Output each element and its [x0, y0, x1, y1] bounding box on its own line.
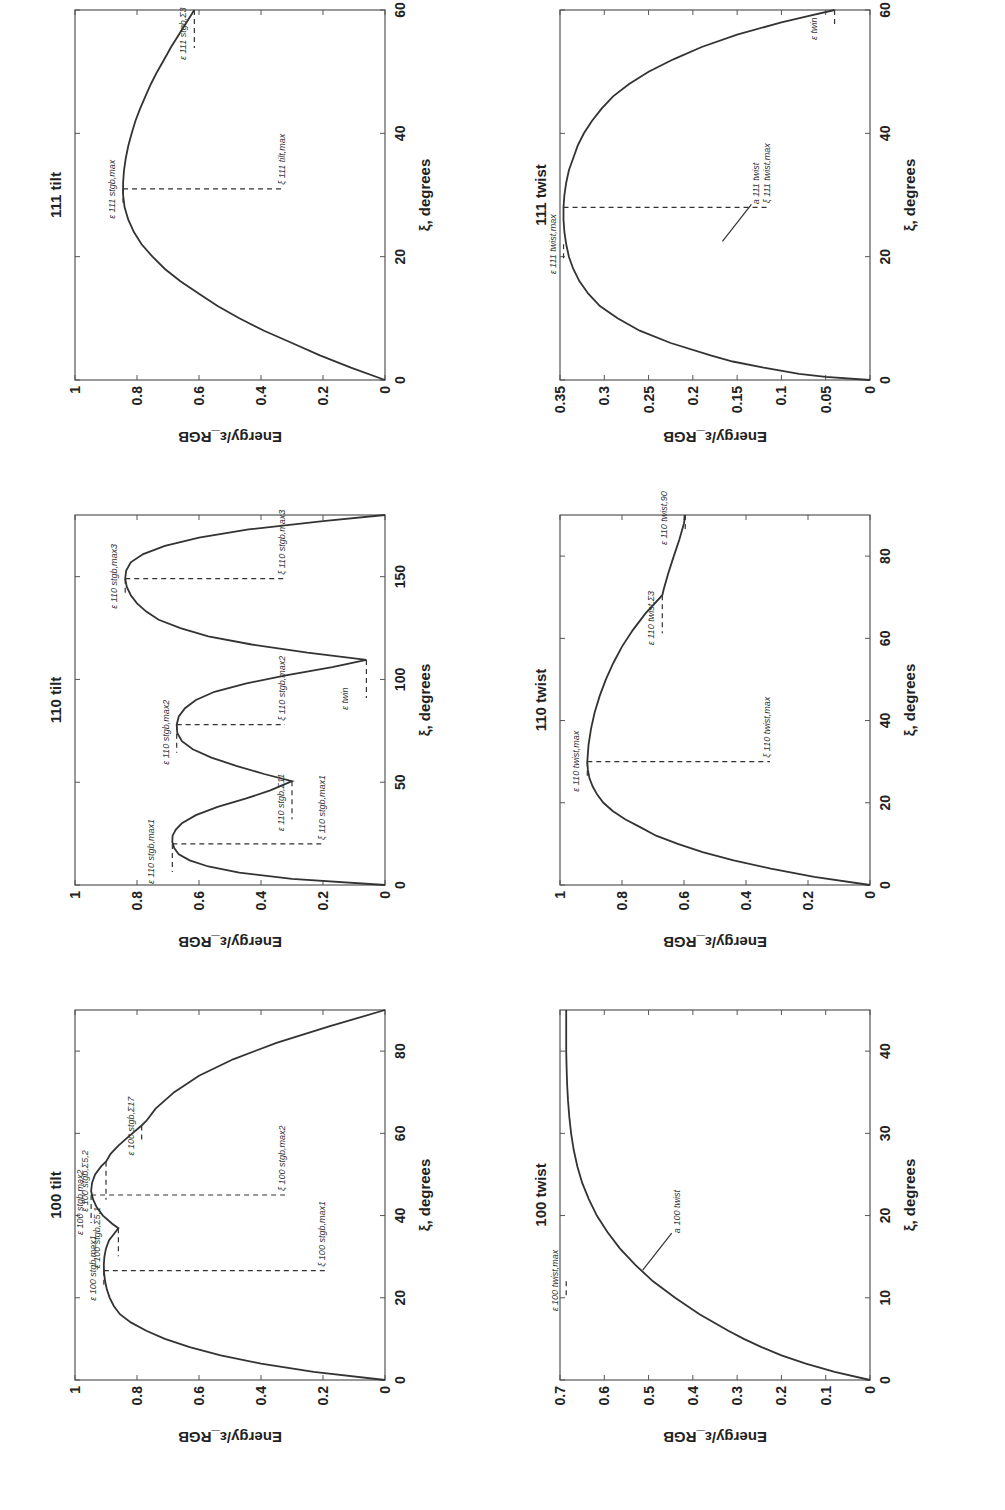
plot-frame [75, 515, 385, 885]
x-tick-label: 80 [392, 1043, 408, 1059]
chart-title: 110 twist [532, 669, 549, 732]
x-axis-label: ξ, degrees [416, 159, 433, 232]
y-tick-label: 0.1 [773, 386, 789, 406]
annotation-label: ξ 100 stgb,max2 [277, 1125, 287, 1191]
chart-title: 110 tilt [47, 677, 64, 724]
y-tick-label: 1 [67, 386, 83, 394]
annotation-label: ε 110 twist,Σ3 [646, 591, 656, 645]
x-tick-label: 80 [877, 548, 893, 564]
annotation-label: ε 110 stgb,max3 [109, 544, 119, 609]
annotation-label: a 100 twist [672, 1190, 682, 1234]
figure-stage: 100 tilt02040608000.20.40.60.81ξ, degree… [0, 0, 1005, 1510]
x-tick-label: 40 [392, 1208, 408, 1224]
y-axis-label: Energy/ε_RGB [663, 934, 767, 951]
plot-frame [75, 10, 385, 380]
y-tick-label: 0.2 [315, 386, 331, 406]
annotation-label: ε twin [809, 18, 819, 40]
annotation-label: ε 110 stgb,max2 [161, 700, 171, 765]
plot-frame [560, 1010, 870, 1380]
y-tick-label: 0 [377, 1386, 393, 1394]
panel-100-twist: 100 twist01020304000.10.20.30.40.50.60.7… [515, 1010, 939, 1450]
chart-title: 111 tilt [47, 172, 64, 218]
y-tick-label: 0 [377, 386, 393, 394]
y-tick-label: 0 [377, 891, 393, 899]
x-tick-label: 60 [877, 630, 893, 646]
chart-title: 100 tilt [47, 1171, 64, 1219]
y-tick-label: 0.2 [315, 891, 331, 911]
x-tick-label: 0 [877, 376, 893, 384]
plot-frame [560, 10, 870, 380]
chart-title: 100 twist [532, 1163, 549, 1226]
panel-111-tilt: 111 tilt020406000.20.40.60.81ξ, degreesE… [30, 10, 454, 450]
x-tick-label: 100 [392, 668, 408, 692]
y-tick-label: 0.8 [129, 1386, 145, 1406]
y-tick-label: 0.1 [818, 1386, 834, 1406]
y-tick-label: 0 [862, 386, 878, 394]
y-tick-label: 1 [67, 1386, 83, 1394]
x-tick-label: 20 [392, 249, 408, 265]
annotation-label: ε 100 stgb,Σ5,1 [92, 1207, 102, 1268]
annotation-label: a 111 twist [751, 162, 761, 204]
chart-svg: 111 tilt020406000.20.40.60.81ξ, degreesE… [30, 10, 450, 450]
energy-curve [564, 10, 871, 380]
y-tick-label: 0 [862, 891, 878, 899]
annotation-label: ε 110 twist,90 [659, 491, 669, 545]
y-tick-label: 0.35 [552, 386, 568, 413]
y-tick-label: 0.4 [253, 1386, 269, 1406]
energy-curve [123, 10, 385, 380]
y-tick-label: 0.25 [641, 386, 657, 413]
annotation-label: ε 100 stgb,Σ17 [126, 1096, 136, 1156]
y-axis-label: Energy/ε_RGB [663, 429, 767, 446]
panel-100-tilt: 100 tilt02040608000.20.40.60.81ξ, degree… [30, 1010, 454, 1450]
annotation-label: ε 100 twist,max [550, 1249, 560, 1311]
annotation-label: ε 110 stgb,max1 [146, 819, 156, 884]
annotation-label: ε 110 stgb,Σ11 [276, 774, 286, 832]
y-tick-label: 0.8 [614, 891, 630, 911]
x-tick-label: 0 [392, 376, 408, 384]
y-tick-label: 0.05 [818, 386, 834, 413]
y-tick-label: 0.4 [253, 891, 269, 911]
x-axis-label: ξ, degrees [901, 159, 918, 232]
x-tick-label: 60 [392, 2, 408, 18]
plot-frame [560, 515, 870, 885]
chart-svg: 110 twist02040608000.20.40.60.81ξ, degre… [515, 515, 935, 955]
x-tick-label: 20 [392, 1290, 408, 1306]
x-axis-label: ξ, degrees [901, 664, 918, 737]
chart-svg: 100 tilt02040608000.20.40.60.81ξ, degree… [30, 1010, 450, 1450]
y-axis-label: Energy/ε_RGB [178, 1429, 282, 1446]
annotation-label: ε 110 twist,max [571, 730, 581, 791]
y-tick-label: 0.2 [800, 891, 816, 911]
y-tick-label: 0.8 [129, 891, 145, 911]
x-tick-label: 40 [392, 125, 408, 141]
x-tick-label: 150 [392, 565, 408, 589]
y-tick-label: 0.3 [596, 386, 612, 406]
x-tick-label: 40 [877, 713, 893, 729]
y-tick-label: 0.6 [676, 891, 692, 911]
x-tick-label: 60 [392, 1125, 408, 1141]
y-tick-label: 0.6 [191, 386, 207, 406]
chart-svg: 110 tilt05010015000.20.40.60.81ξ, degree… [30, 515, 450, 955]
annotation-label: ξ 110 twist,max [762, 696, 772, 757]
y-tick-label: 0.7 [552, 1386, 568, 1406]
annotation-label: ε 111 stgb,max [107, 159, 117, 219]
annotation-label: ε twin [340, 687, 350, 709]
x-tick-label: 0 [392, 881, 408, 889]
x-axis-label: ξ, degrees [901, 1159, 918, 1232]
annotation-label: ε 111 stgb,Σ3 [178, 7, 188, 60]
x-axis-label: ξ, degrees [416, 1159, 433, 1232]
panel-110-twist: 110 twist02040608000.20.40.60.81ξ, degre… [515, 515, 939, 955]
panel-111-twist: 111 twist020406000.050.10.150.20.250.30.… [515, 10, 939, 450]
y-tick-label: 0.6 [191, 891, 207, 911]
energy-curve [587, 515, 870, 885]
chart-title: 111 twist [532, 164, 549, 226]
x-tick-label: 40 [877, 125, 893, 141]
x-tick-label: 30 [877, 1125, 893, 1141]
x-tick-label: 60 [877, 2, 893, 18]
y-axis-label: Energy/ε_RGB [178, 429, 282, 446]
y-tick-label: 1 [67, 891, 83, 899]
y-tick-label: 0.4 [738, 891, 754, 911]
annotation-label: ξ 111 twist,max [762, 143, 772, 204]
x-tick-label: 50 [392, 774, 408, 790]
annotation-label: ξ 100 stgb,max1 [317, 1201, 327, 1267]
y-tick-label: 0.8 [129, 386, 145, 406]
